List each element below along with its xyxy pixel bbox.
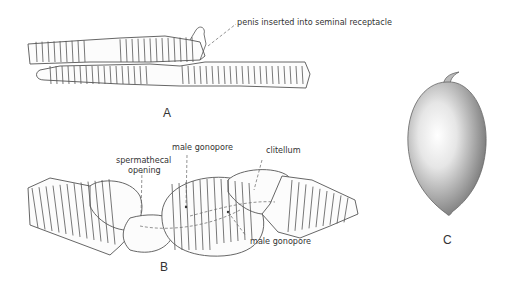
upper-worm [28,27,206,64]
earthworm-mating-diagram: penis inserted into seminal receptacle A… [0,0,510,287]
gonopore-dot-upper [185,206,187,208]
label-male-gonopore-upper: male gonopore [172,142,233,152]
penis-annotation: penis inserted into seminal receptacle [237,17,392,27]
panel-a: penis inserted into seminal receptacle A [28,17,392,120]
panel-c: C [408,72,486,247]
panel-b: male gonopore clitellum spermathecal ope… [28,142,358,274]
penis-leader-line [208,24,236,46]
label-opening: opening [128,165,161,175]
panel-label-a: A [163,106,171,120]
panel-label-c: C [443,233,452,247]
panel-label-b: B [160,260,168,274]
label-clitellum: clitellum [266,145,301,155]
label-male-gonopore-lower: male gonopore [250,236,311,246]
lower-worm [37,62,310,88]
label-spermathecal: spermathecal [116,155,171,165]
cocoon [408,82,486,215]
